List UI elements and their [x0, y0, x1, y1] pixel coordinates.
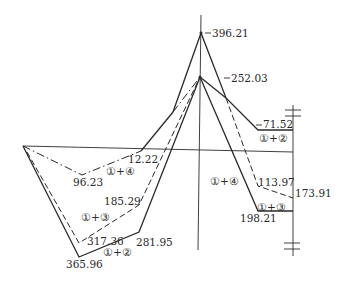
envelope-1-4-right — [200, 77, 293, 211]
label-173-91: 173.91 — [295, 187, 332, 199]
center-axis — [198, 15, 201, 250]
peak-point-top — [200, 32, 203, 35]
combo-label-left-1-3: ①+③ — [81, 211, 110, 223]
envelope-1-4-left — [141, 112, 173, 151]
label-96-23: 96.23 — [73, 176, 103, 188]
label-113-97: 113.97 — [258, 176, 295, 188]
peak-point-lower — [199, 76, 202, 79]
label-185-29: 185.29 — [104, 195, 141, 207]
support-ticks-bottom — [284, 243, 300, 249]
label-12-22: 12.22 — [128, 153, 158, 165]
combo-label-right-1-2: ①+② — [259, 132, 288, 144]
baseline — [23, 146, 293, 152]
label-396-21: 396.21 — [212, 27, 249, 39]
moment-envelope-diagram: 396.21 252.03 71.52 113.97 173.91 198.21… — [0, 0, 343, 283]
combo-label-left-1-4: ①+④ — [106, 165, 135, 177]
label-365-96: 365.96 — [66, 258, 103, 270]
combo-label-left-1-2: ①+② — [103, 246, 132, 258]
combo-label-right-1-4: ①+④ — [210, 175, 239, 187]
label-198-21: 198.21 — [240, 212, 277, 224]
envelope-1-3-left — [27, 77, 200, 243]
envelope-1-4-center-dashdot — [173, 77, 200, 112]
combo-label-right-1-3: ①+③ — [257, 201, 286, 213]
label-71-52: 71.52 — [263, 118, 293, 130]
label-252-03: 252.03 — [231, 72, 268, 84]
label-281-95: 281.95 — [136, 236, 173, 248]
